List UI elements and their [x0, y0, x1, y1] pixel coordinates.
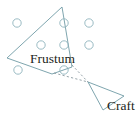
frustum-label: Frustum — [30, 52, 75, 66]
object-marker-circle — [85, 19, 93, 27]
craft-label: Craft — [107, 99, 135, 113]
object-marker-circle — [37, 41, 45, 49]
sight-line-lower — [54, 73, 88, 82]
object-marker-circle — [85, 41, 93, 49]
object-marker-circle — [60, 41, 68, 49]
figure-canvas: Frustum Craft — [0, 0, 140, 123]
object-marker-circle — [14, 66, 22, 74]
object-marker-circle — [13, 19, 21, 27]
